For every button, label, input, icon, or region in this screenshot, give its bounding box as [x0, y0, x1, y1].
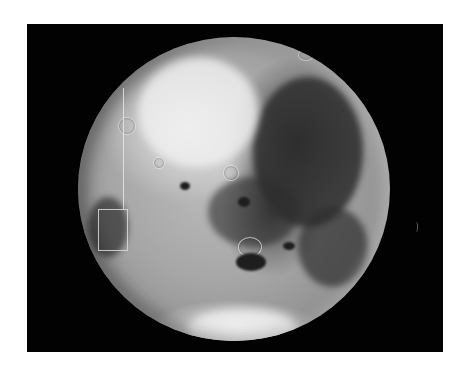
- annotation-vertical-line: [123, 88, 124, 209]
- faint-crescent-mark: [414, 222, 418, 232]
- limb-shading: [78, 37, 390, 341]
- annotation-highlight-box: [98, 209, 128, 251]
- planet-disk: [78, 37, 390, 341]
- photo-frame: [27, 24, 443, 352]
